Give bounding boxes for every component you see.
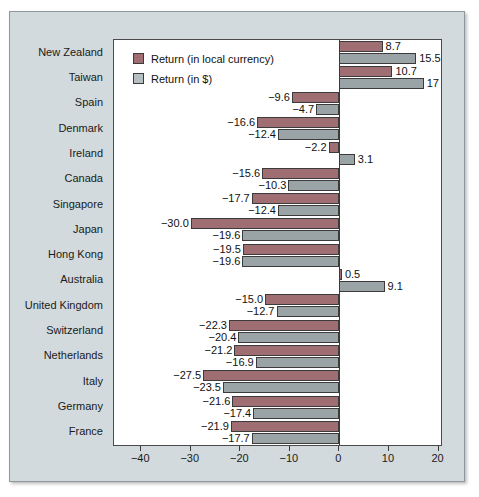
category-label-new-zealand: New Zealand [10,46,107,58]
x-tick [239,446,240,451]
value-label: 8.7 [386,41,401,52]
bar-ireland-usd [339,154,354,165]
value-label: 0.5 [345,269,360,280]
bar-switzerland-local [229,320,339,331]
value-label: −23.5 [114,382,223,393]
bar-denmark-usd [278,129,339,140]
bar-australia-usd [339,281,384,292]
x-tick-label: −30 [180,452,199,464]
bar-france-usd [252,433,340,444]
bar-united-kingdom-local [265,294,339,305]
value-label: −27.5 [114,370,203,381]
value-label: 15.5 [419,53,440,64]
x-tick [140,446,141,451]
bar-germany-local [232,396,339,407]
bar-singapore-local [252,193,340,204]
value-label: −21.9 [114,421,231,432]
value-label: −20.4 [114,332,238,343]
legend-item-local-currency: Return (in local currency) [133,50,323,67]
legend-label-local-currency: Return (in local currency) [151,53,274,65]
bar-netherlands-local [234,345,339,356]
bar-new-zealand-local [339,41,382,52]
plot-area: 8.715.510.717−9.6−4.7−16.6−12.4−2.23.1−1… [113,39,442,446]
x-tick-label: −20 [230,452,249,464]
value-label: −2.2 [114,142,329,153]
x-tick [388,446,389,451]
category-label-netherlands: Netherlands [10,349,107,361]
bar-new-zealand-usd [339,53,416,64]
chart-figure: 8.715.510.717−9.6−4.7−16.6−12.4−2.23.1−1… [9,11,465,482]
bar-denmark-local [257,117,339,128]
bars-container: 8.715.510.717−9.6−4.7−16.6−12.4−2.23.1−1… [114,40,441,445]
bar-hong-kong-usd [242,256,339,267]
legend-swatch-local-currency [133,53,144,64]
value-label: 9.1 [388,281,403,292]
x-tick [338,446,339,451]
x-axis: −40−30−20−1001020 [113,446,442,476]
bar-singapore-usd [278,205,339,216]
value-label: −17.7 [114,193,252,204]
category-label-spain: Spain [10,96,107,108]
value-label: −22.3 [114,320,229,331]
bar-france-local [231,421,340,432]
category-label-italy: Italy [10,375,107,387]
value-label: −4.7 [114,104,316,115]
chart-legend: Return (in local currency) Return (in $) [133,50,323,90]
value-label: −19.5 [114,244,243,255]
x-tick [190,446,191,451]
x-tick-label: 0 [335,452,341,464]
value-label: −16.6 [114,117,257,128]
value-label: 3.1 [358,154,373,165]
bar-taiwan-local [339,66,392,77]
x-tick-label: −40 [131,452,150,464]
category-label-australia: Australia [10,273,107,285]
value-label: 17 [427,78,439,89]
bar-united-kingdom-usd [277,306,340,317]
bar-hong-kong-local [243,244,340,255]
bar-switzerland-usd [238,332,339,343]
value-label: −21.6 [114,396,232,407]
bar-ireland-local [329,142,340,153]
value-label: −15.6 [114,168,262,179]
category-label-united-kingdom: United Kingdom [10,299,107,311]
category-label-taiwan: Taiwan [10,71,107,83]
bar-australia-local [339,269,341,280]
category-label-singapore: Singapore [10,198,107,210]
bar-canada-usd [288,180,339,191]
bar-spain-usd [316,104,339,115]
legend-swatch-usd [133,73,144,84]
value-label: −19.6 [114,256,242,267]
value-label: −30.0 [114,218,191,229]
bar-spain-local [292,92,340,103]
bar-canada-local [262,168,339,179]
legend-item-usd: Return (in $) [133,70,323,87]
category-label-switzerland: Switzerland [10,324,107,336]
value-label: −10.3 [114,180,288,191]
category-label-japan: Japan [10,223,107,235]
value-label: −17.7 [114,433,252,444]
x-tick [289,446,290,451]
value-label: 10.7 [395,66,416,77]
category-label-denmark: Denmark [10,122,107,134]
value-label: −12.7 [114,306,277,317]
bar-italy-usd [223,382,339,393]
bar-italy-local [203,370,339,381]
value-label: −19.6 [114,230,242,241]
x-tick-label: 20 [431,452,443,464]
value-label: −12.4 [114,129,278,140]
bar-japan-local [191,218,340,229]
x-tick-label: 10 [382,452,394,464]
bar-netherlands-usd [256,357,340,368]
value-label: −15.0 [114,294,265,305]
legend-label-usd: Return (in $) [151,73,212,85]
bar-germany-usd [253,408,339,419]
category-label-ireland: Ireland [10,147,107,159]
category-label-france: France [10,425,107,437]
value-label: −21.2 [114,345,234,356]
bar-japan-usd [242,230,339,241]
category-label-germany: Germany [10,400,107,412]
value-label: −9.6 [114,92,292,103]
x-tick-label: −10 [280,452,299,464]
x-tick [438,446,439,451]
value-label: −17.4 [114,408,253,419]
